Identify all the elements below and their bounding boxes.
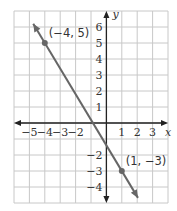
y-tick-label: 2 [95, 85, 102, 98]
y-tick-label: −2 [86, 149, 102, 162]
y-tick-label: −4 [86, 181, 102, 194]
x-tick-label: −5 [21, 126, 37, 139]
y-tick-label: −3 [86, 165, 102, 178]
x-tick-label: 2 [134, 126, 141, 139]
y-tick-label: 5 [95, 37, 102, 50]
x-axis-label: x [165, 126, 172, 139]
x-tick-label: −4 [37, 126, 53, 139]
coordinate-plane: −5−4−3−2123654321−2−3−4xy(−4, 5)(1, −3) [0, 0, 177, 211]
point-label: (1, −3) [126, 154, 167, 168]
y-tick-label: 6 [95, 21, 102, 34]
y-tick-label: 1 [95, 101, 102, 114]
y-tick-label: 4 [95, 53, 102, 66]
data-point [119, 168, 125, 174]
y-tick-label: 3 [95, 69, 102, 82]
x-tick-label: 1 [118, 126, 125, 139]
y-axis-arrow-up-icon [103, 11, 109, 18]
y-axis-label: y [111, 8, 119, 21]
point-label: (−4, 5) [49, 26, 90, 40]
y-axis-arrow-down-icon [103, 196, 109, 203]
x-tick-label: −3 [52, 126, 68, 139]
x-axis-arrow-left-icon [14, 120, 21, 126]
data-point [42, 40, 48, 46]
x-tick-label: −2 [67, 126, 83, 139]
x-tick-label: 3 [149, 126, 156, 139]
